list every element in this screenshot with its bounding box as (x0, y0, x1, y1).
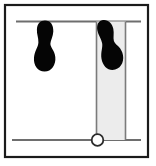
figure-canvas: Footprint stance diagram Top-down schema… (0, 0, 156, 166)
footprint-stance-figure: Footprint stance diagram Top-down schema… (0, 0, 156, 166)
outer-border (5, 5, 148, 157)
ball-marker (92, 134, 104, 146)
